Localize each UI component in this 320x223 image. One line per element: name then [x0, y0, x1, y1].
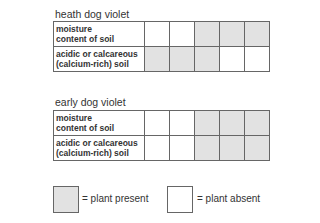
legend-present-swatch — [53, 186, 79, 213]
cell-present — [195, 47, 220, 72]
early-dog-violet-table: moisturecontent of soil acidic or calcar… — [53, 110, 270, 161]
cell-absent — [220, 47, 245, 72]
row-label: acidic or calcareous(calcium-rich) soil — [54, 47, 145, 72]
cell-absent — [170, 111, 195, 136]
table-row: moisturecontent of soil — [54, 22, 270, 47]
legend-absent-label: = plant absent — [197, 193, 260, 204]
cell-present — [145, 47, 170, 72]
table-row: moisturecontent of soil — [54, 111, 270, 136]
legend-present-label: = plant present — [82, 193, 148, 204]
table-title-heath-dog-violet: heath dog violet — [55, 8, 129, 20]
cell-present — [195, 136, 220, 161]
table-row: acidic or calcareous(calcium-rich) soil — [54, 136, 270, 161]
legend-absent-swatch — [167, 186, 193, 213]
row-label: acidic or calcareous(calcium-rich) soil — [54, 136, 145, 161]
cell-absent — [145, 22, 170, 47]
cell-present — [170, 47, 195, 72]
cell-present — [245, 22, 270, 47]
cell-absent — [145, 136, 170, 161]
cell-present — [220, 111, 245, 136]
cell-absent — [245, 47, 270, 72]
cell-absent — [170, 22, 195, 47]
cell-absent — [170, 136, 195, 161]
table-title-early-dog-violet: early dog violet — [55, 96, 126, 108]
cell-present — [245, 136, 270, 161]
heath-dog-violet-table: moisturecontent of soil acidic or calcar… — [53, 21, 270, 72]
cell-absent — [145, 111, 170, 136]
table-row: acidic or calcareous(calcium-rich) soil — [54, 47, 270, 72]
cell-present — [245, 111, 270, 136]
row-label: moisturecontent of soil — [54, 22, 145, 47]
row-label: moisturecontent of soil — [54, 111, 145, 136]
cell-present — [220, 136, 245, 161]
cell-present — [220, 22, 245, 47]
cell-present — [195, 22, 220, 47]
cell-present — [195, 111, 220, 136]
